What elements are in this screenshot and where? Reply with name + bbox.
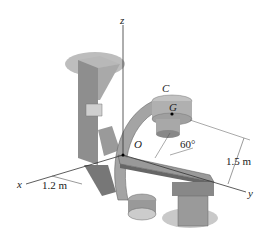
origin-point xyxy=(122,154,125,157)
y-axis-label: y xyxy=(247,187,253,199)
support-column xyxy=(78,56,120,196)
x-axis-label: x xyxy=(16,178,22,190)
z-axis-label: z xyxy=(119,14,125,26)
origin-label: O xyxy=(134,138,142,150)
g-label: G xyxy=(169,101,177,113)
xray-source xyxy=(128,194,156,220)
horizontal-dimension-label: 1.2 m xyxy=(42,179,68,191)
c-label: C xyxy=(162,82,170,94)
g-extension-line xyxy=(190,120,250,140)
angle-label: 60° xyxy=(180,138,195,150)
vertical-dimension-label: 1.5 m xyxy=(226,155,252,167)
diagram-canvas: z x y O C G 1.2 m 1.5 m 60° xyxy=(0,0,269,244)
